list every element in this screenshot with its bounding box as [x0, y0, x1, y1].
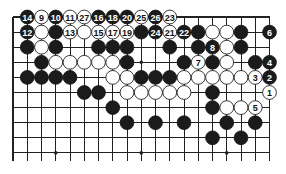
black-stone [149, 116, 163, 130]
move-number: 11 [65, 13, 75, 23]
white-stone [35, 25, 49, 39]
black-stone [92, 40, 106, 54]
black-stone [163, 40, 177, 54]
hoshi-point [139, 61, 143, 65]
white-stone: 25 [134, 10, 148, 24]
white-stone: 9 [35, 10, 49, 24]
black-stone [177, 55, 191, 69]
white-stone: 23 [163, 10, 177, 24]
move-number: 13 [65, 28, 75, 38]
black-stone [248, 116, 262, 130]
black-stone [177, 116, 191, 130]
move-number: 5 [253, 103, 258, 113]
move-number: 2 [267, 73, 272, 83]
black-stone: 4 [263, 55, 277, 69]
black-stone [120, 55, 134, 69]
stones-layer: 1491011271618202526231213151719242122687… [20, 10, 276, 145]
white-stone [63, 55, 77, 69]
black-stone: 8 [206, 40, 220, 54]
white-stone [234, 71, 248, 85]
move-number: 25 [136, 13, 146, 23]
white-stone [134, 86, 148, 100]
black-stone [120, 40, 134, 54]
move-number: 21 [165, 28, 175, 38]
black-stone [49, 71, 63, 85]
black-stone [206, 86, 220, 100]
white-stone [191, 71, 205, 85]
black-stone [63, 71, 77, 85]
move-number: 3 [253, 73, 258, 83]
black-stone [92, 86, 106, 100]
white-stone: 19 [120, 25, 134, 39]
move-number: 18 [108, 13, 118, 23]
white-stone [149, 86, 163, 100]
black-stone [248, 55, 262, 69]
black-stone [191, 40, 205, 54]
black-stone: 10 [49, 10, 63, 24]
white-stone: 5 [248, 101, 262, 115]
white-stone [177, 86, 191, 100]
white-stone [49, 55, 63, 69]
black-stone: 14 [20, 10, 34, 24]
black-stone [20, 71, 34, 85]
hoshi-point [139, 151, 143, 155]
black-stone: 16 [92, 10, 106, 24]
black-stone [77, 86, 91, 100]
black-stone [106, 101, 120, 115]
white-stone: 1 [263, 86, 277, 100]
white-stone [163, 86, 177, 100]
black-stone [134, 25, 148, 39]
black-stone [20, 40, 34, 54]
white-stone [220, 101, 234, 115]
white-stone [120, 71, 134, 85]
black-stone: 18 [106, 10, 120, 24]
move-number: 9 [39, 13, 44, 23]
black-stone [149, 71, 163, 85]
move-number: 10 [51, 13, 61, 23]
black-stone [49, 40, 63, 54]
black-stone [35, 55, 49, 69]
black-stone [220, 116, 234, 130]
black-stone: 20 [120, 10, 134, 24]
white-stone [92, 55, 106, 69]
black-stone [234, 131, 248, 145]
move-number: 22 [179, 28, 189, 38]
white-stone [177, 71, 191, 85]
hoshi-point [54, 151, 58, 155]
black-stone [106, 40, 120, 54]
black-stone [191, 25, 205, 39]
go-board: 1491011271618202526231213151719242122687… [0, 0, 286, 174]
move-number: 27 [79, 13, 89, 23]
white-stone: 13 [63, 25, 77, 39]
move-number: 16 [93, 13, 103, 23]
white-stone: 3 [248, 71, 262, 85]
black-stone: 6 [263, 25, 277, 39]
white-stone: 11 [63, 10, 77, 24]
move-number: 8 [210, 43, 215, 53]
white-stone: 7 [191, 55, 205, 69]
move-number: 7 [196, 58, 201, 68]
white-stone: 21 [163, 25, 177, 39]
black-stone [49, 25, 63, 39]
move-number: 19 [122, 28, 132, 38]
white-stone [77, 55, 91, 69]
black-stone: 12 [20, 25, 34, 39]
hoshi-point [225, 151, 229, 155]
white-stone [120, 86, 134, 100]
black-stone: 24 [149, 25, 163, 39]
white-stone [220, 25, 234, 39]
black-stone [234, 40, 248, 54]
white-stone: 17 [106, 25, 120, 39]
move-number: 1 [267, 88, 272, 98]
white-stone [106, 55, 120, 69]
move-number: 12 [22, 28, 32, 38]
black-stone [234, 25, 248, 39]
black-stone [120, 116, 134, 130]
move-number: 24 [150, 28, 160, 38]
white-stone [220, 55, 234, 69]
white-stone [77, 25, 91, 39]
white-stone [106, 71, 120, 85]
move-number: 20 [122, 13, 132, 23]
move-number: 23 [165, 13, 175, 23]
move-number: 4 [267, 58, 272, 68]
